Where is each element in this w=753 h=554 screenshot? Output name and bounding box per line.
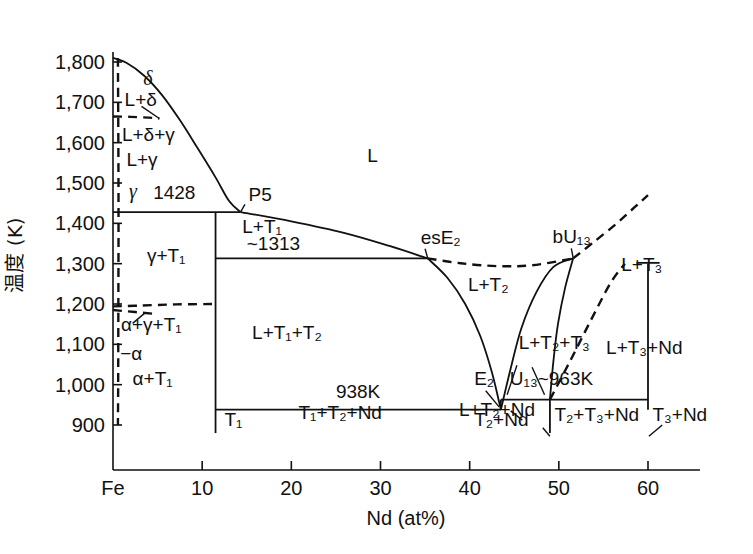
y-tick-labels: 9001,0001,1001,2001,3001,4001,5001,6001,… xyxy=(55,51,105,436)
field-label-temp-938: 938K xyxy=(336,381,381,402)
leader-line-7 xyxy=(543,428,550,436)
curve-alpha-gamma-dashed xyxy=(113,304,216,306)
x-tick-label: 40 xyxy=(459,477,481,499)
field-label-T2-T3-Nd: T₂+T₃+Nd xyxy=(554,404,639,425)
y-tick-label: 1,200 xyxy=(55,293,105,315)
field-label-L-T3: L+T₃ xyxy=(621,254,662,275)
field-label-L-T2: L+T₂ xyxy=(468,274,509,295)
x-tick-label: 60 xyxy=(637,477,659,499)
x-axis-title: Nd (at%) xyxy=(367,507,446,529)
curve-solvus-esE2-bU13-dashed xyxy=(428,258,573,266)
field-label-alpha: −α xyxy=(120,343,142,364)
field-label-alpha-gamma-T1: α+γ+T₁ xyxy=(121,314,182,335)
curve-Fe-solubility-dashed xyxy=(118,58,119,425)
field-label-L-T2-T3: L+T₂+T₃ xyxy=(519,332,590,353)
y-tick-label: 900 xyxy=(72,414,105,436)
field-label-L-gamma: L+γ xyxy=(126,149,158,170)
y-tick-label: 1,500 xyxy=(55,172,105,194)
field-label-T3-Nd: T₃+Nd xyxy=(652,404,707,425)
phase-field-labels: δL+δL+δ+γL+γγ1428P5Lγ+T₁L+T₁~1313esE₂bU₁… xyxy=(120,67,707,429)
x-tick-marks xyxy=(202,461,648,470)
field-label-L: L xyxy=(367,145,378,166)
field-label-delta: δ xyxy=(143,67,153,89)
x-tick-label: 50 xyxy=(548,477,570,499)
field-label-temp-1428: 1428 xyxy=(153,182,195,203)
phase-diagram-svg: 9001,0001,1001,2001,3001,4001,5001,6001,… xyxy=(0,0,753,554)
field-label-bU13: bU₁₃ xyxy=(553,226,591,247)
x-tick-labels: Fe102030405060 xyxy=(101,477,659,499)
field-label-gamma-T1: γ+T₁ xyxy=(147,245,186,266)
field-label-P5: P5 xyxy=(249,184,272,205)
field-label-T1: T₁ xyxy=(224,409,242,430)
x-tick-label: Fe xyxy=(101,477,124,499)
leader-line-8 xyxy=(649,425,662,436)
field-label-L-delta-gamma: L+δ+γ xyxy=(122,124,175,145)
field-label-T2-Nd: T₂+Nd xyxy=(474,409,528,430)
field-label-T1-T2-Nd: T₁+T₂+Nd xyxy=(298,402,381,423)
phase-diagram-figure: 9001,0001,1001,2001,3001,4001,5001,6001,… xyxy=(0,0,753,554)
field-label-L-delta: L+δ xyxy=(125,89,157,110)
field-label-U13-963: U₁₃~963K xyxy=(510,368,594,389)
y-tick-label: 1,800 xyxy=(55,51,105,73)
y-tick-label: 1,400 xyxy=(55,212,105,234)
x-tick-label: 20 xyxy=(280,477,302,499)
x-tick-label: 30 xyxy=(369,477,391,499)
y-tick-label: 1,600 xyxy=(55,132,105,154)
y-axis-title: 温度 (K) xyxy=(3,217,27,292)
field-label-gamma: γ xyxy=(129,180,138,203)
field-label-E2: E₂ xyxy=(474,368,494,389)
field-label-alpha-T1: α+T₁ xyxy=(133,368,173,389)
field-label-L-T3-Nd: L+T₃+Nd xyxy=(606,337,682,358)
field-label-temp-1313: ~1313 xyxy=(247,233,300,254)
field-label-L-T1-T2: L+T₁+T₂ xyxy=(252,322,322,343)
y-tick-label: 1,000 xyxy=(55,374,105,396)
y-tick-label: 1,300 xyxy=(55,253,105,275)
y-tick-label: 1,700 xyxy=(55,91,105,113)
x-tick-label: 10 xyxy=(191,477,213,499)
leader-line-2 xyxy=(571,248,573,257)
curve-delta-gamma-dashed xyxy=(113,116,159,118)
leader-line-0 xyxy=(241,204,245,212)
y-tick-label: 1,100 xyxy=(55,333,105,355)
field-label-esE2: esE₂ xyxy=(421,227,461,248)
